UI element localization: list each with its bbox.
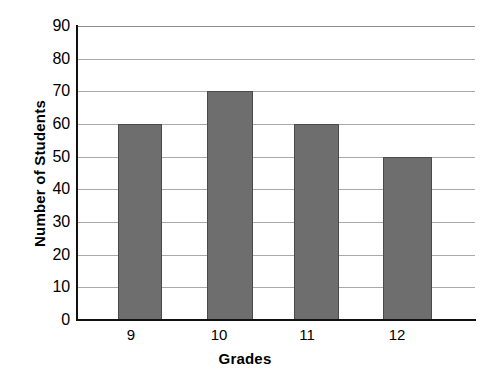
gridline-70 [77, 91, 475, 92]
y-axis-line [76, 25, 78, 321]
gridline-90 [77, 26, 475, 27]
x-axis-line [76, 319, 476, 321]
plot-area [77, 26, 475, 320]
y-tick-label: 0 [8, 312, 70, 328]
x-tick-label-grade-10: 10 [186, 327, 252, 343]
gridline-80 [77, 59, 475, 60]
y-tick-label: 90 [8, 18, 70, 34]
y-tick-label: 10 [8, 279, 70, 295]
bar-grade-11 [294, 124, 339, 320]
x-axis-title: Grades [0, 350, 490, 367]
x-tick-label-grade-11: 11 [274, 327, 340, 343]
x-tick-label-grade-9: 9 [98, 327, 164, 343]
bar-grade-12 [383, 157, 432, 320]
x-tick-label-grade-12: 12 [364, 327, 430, 343]
bar-chart-figure: 90 80 70 60 50 40 30 20 10 0 9 10 11 12 … [0, 0, 490, 381]
y-axis-title: Number of Students [31, 74, 48, 274]
bar-grade-10 [207, 91, 253, 320]
y-tick-label: 80 [8, 51, 70, 67]
bar-grade-9 [118, 124, 162, 320]
